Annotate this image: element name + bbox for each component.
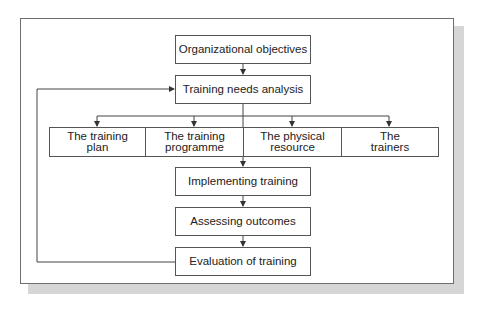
node-physical-resource: The physical resource [243, 127, 342, 157]
node-label: Assessing outcomes [190, 216, 295, 227]
node-label: Evaluation of training [189, 256, 296, 267]
node-label: Training needs analysis [183, 84, 303, 95]
node-implementing-training: Implementing training [175, 167, 311, 196]
node-trainers: The trainers [341, 127, 439, 157]
node-training-plan: The training plan [49, 127, 146, 157]
node-training-needs-analysis: Training needs analysis [175, 75, 311, 104]
node-label-line2: resource [260, 142, 325, 153]
node-label: Implementing training [188, 176, 298, 187]
node-organizational-objectives: Organizational objectives [175, 35, 311, 64]
node-label-line2: trainers [371, 142, 409, 153]
node-label: Organizational objectives [179, 44, 308, 55]
node-assessing-outcomes: Assessing outcomes [175, 207, 311, 236]
node-label-line2: programme [164, 142, 225, 153]
node-label-line2: plan [67, 142, 128, 153]
feedback-loop-arrow [37, 89, 175, 262]
node-evaluation-of-training: Evaluation of training [175, 247, 311, 276]
node-training-programme: The training programme [145, 127, 244, 157]
